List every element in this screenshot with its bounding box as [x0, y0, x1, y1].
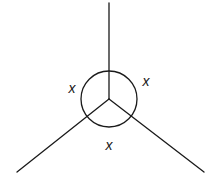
- angle-label-right: x: [143, 74, 150, 88]
- angle-diagram: [0, 0, 208, 191]
- ray-lower-right: [109, 99, 204, 172]
- ray-lower-left: [17, 99, 109, 172]
- angle-label-bottom: x: [106, 138, 113, 152]
- angle-label-left: x: [69, 81, 76, 95]
